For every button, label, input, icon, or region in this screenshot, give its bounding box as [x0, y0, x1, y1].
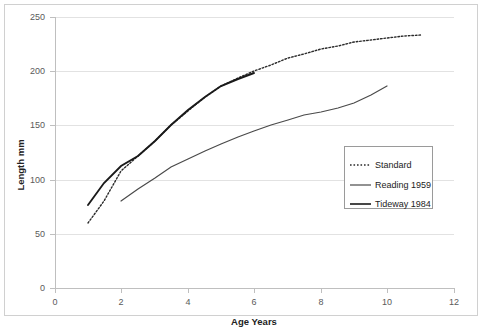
y-tick-labels: 250 200 150 100 50 0 [30, 12, 45, 293]
line-chart-canvas: 250 200 150 100 50 0 0 2 4 6 8 10 12 Age… [0, 0, 483, 335]
x-tick-label-10: 10 [382, 297, 392, 307]
y-tick-label-0: 0 [40, 283, 45, 293]
y-tick-label-250: 250 [30, 12, 45, 22]
y-tick-label-150: 150 [30, 120, 45, 130]
x-tick-label-2: 2 [118, 297, 123, 307]
x-axis-ticks [55, 288, 454, 293]
x-tick-label-8: 8 [318, 297, 323, 307]
legend-label-standard: Standard [375, 160, 412, 170]
y-tick-label-50: 50 [35, 229, 45, 239]
x-tick-label-4: 4 [185, 297, 190, 307]
x-tick-label-0: 0 [52, 297, 57, 307]
legend-label-reading-1959: Reading 1959 [375, 180, 431, 190]
legend-label-tideway-1984: Tideway 1984 [375, 199, 431, 209]
y-tick-label-100: 100 [30, 175, 45, 185]
x-tick-label-12: 12 [449, 297, 459, 307]
legend[interactable]: Standard Reading 1959 Tideway 1984 [344, 146, 432, 209]
y-axis-ticks [50, 17, 55, 288]
x-tick-labels: 0 2 4 6 8 10 12 [52, 297, 459, 307]
x-tick-label-6: 6 [251, 297, 256, 307]
y-axis-title: Length mm [15, 139, 26, 190]
x-axis-title: Age Years [231, 316, 277, 327]
y-tick-label-200: 200 [30, 66, 45, 76]
chart-figure: 250 200 150 100 50 0 0 2 4 6 8 10 12 Age… [0, 0, 483, 335]
